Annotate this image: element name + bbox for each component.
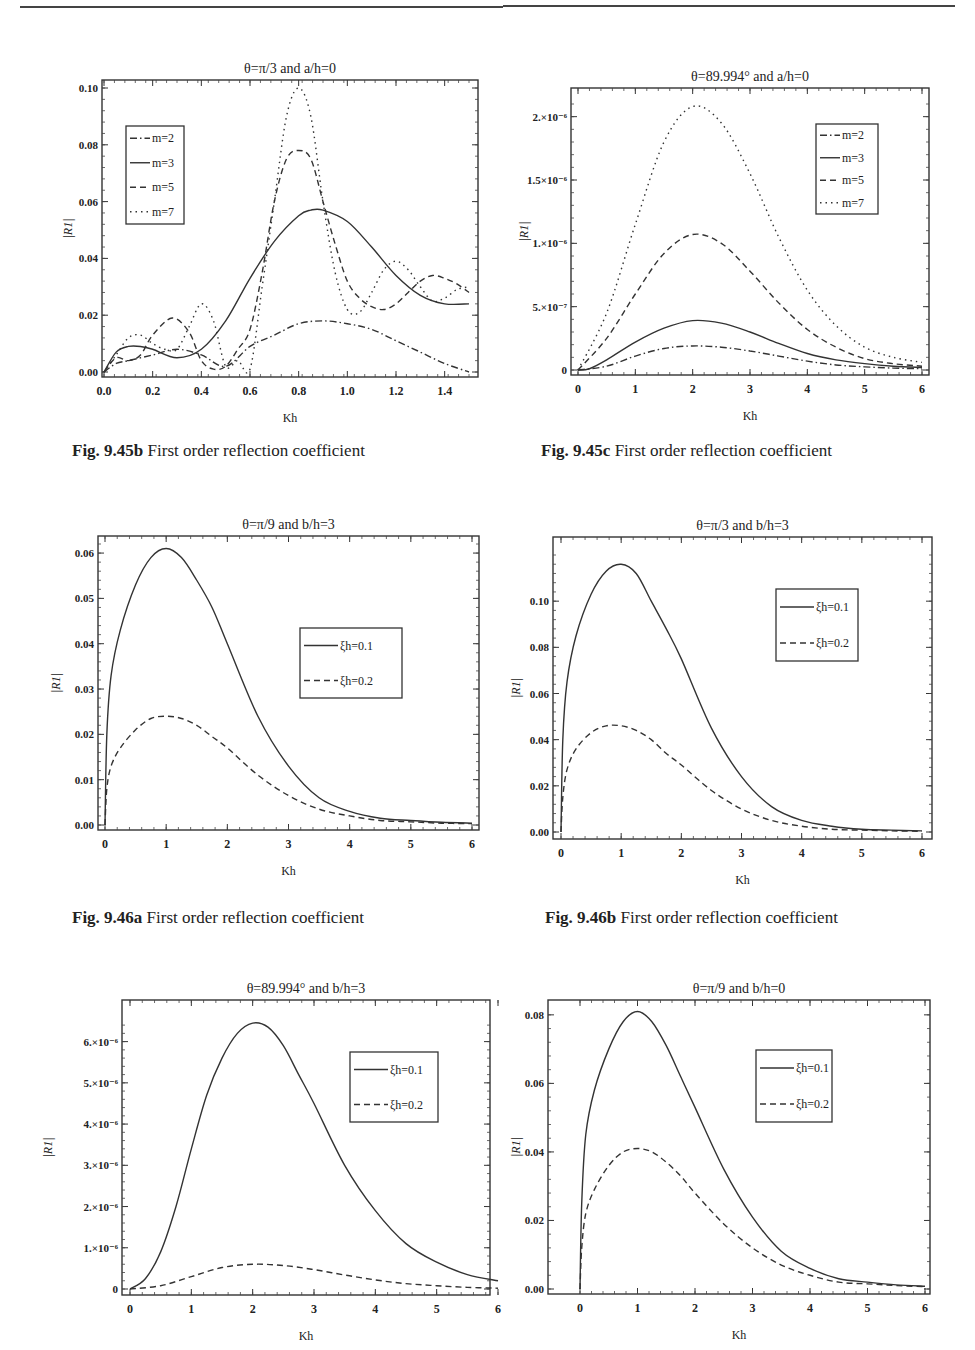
plot-frame <box>548 1000 930 1294</box>
legend-label: ξh=0.1 <box>340 639 373 653</box>
charts-canvas: θ=π/3 and a/h=00.00.20.40.60.81.01.21.40… <box>0 0 975 1350</box>
y-tick-label: 5.×10⁻⁷ <box>532 301 567 313</box>
chart-title: θ=89.994° and a/h=0 <box>691 69 809 84</box>
y-axis-label: |R1| <box>509 1137 523 1157</box>
y-tick-label: 0.06 <box>525 1077 545 1089</box>
y-tick-label: 0.00 <box>525 1283 545 1295</box>
legend-label: m=3 <box>842 151 864 165</box>
plot-frame <box>98 536 479 830</box>
chart-title: θ=89.994° and b/h=3 <box>247 981 366 996</box>
x-tick-label: 0 <box>102 837 108 851</box>
x-tick-label: 1.4 <box>437 384 452 398</box>
x-tick-label: 0 <box>558 846 564 860</box>
x-tick-label: 6 <box>919 382 925 396</box>
x-tick-label: 2 <box>250 1302 256 1316</box>
legend-label: ξh=0.1 <box>796 1061 829 1075</box>
x-axis-label: Kh <box>743 409 758 423</box>
x-tick-label: 3 <box>286 837 292 851</box>
x-tick-label: 2 <box>678 846 684 860</box>
legend-label: m=5 <box>842 173 864 187</box>
y-tick-label: 0.10 <box>79 82 99 94</box>
series-line <box>578 234 922 370</box>
legend-label: m=2 <box>842 128 864 142</box>
line-chart: θ=π/3 and a/h=00.00.20.40.60.81.01.21.40… <box>61 61 478 425</box>
legend-label: m=3 <box>152 156 174 170</box>
legend-label: m=5 <box>152 180 174 194</box>
series-line <box>578 320 922 370</box>
y-tick-label: 0 <box>562 364 568 376</box>
x-axis-label: Kh <box>735 873 750 887</box>
series-line <box>105 716 472 825</box>
x-tick-label: 5 <box>434 1302 440 1316</box>
x-axis-label: Kh <box>732 1328 747 1342</box>
y-tick-label: 0.02 <box>75 728 95 740</box>
plot-frame <box>122 1000 490 1295</box>
series-line <box>580 1011 925 1289</box>
y-axis-label: |R1| <box>41 1138 55 1158</box>
legend-label: m=2 <box>152 131 174 145</box>
chart-title: θ=π/9 and b/h=3 <box>242 517 335 532</box>
y-tick-label: 0.08 <box>530 641 550 653</box>
line-chart: θ=89.994° and b/h=3012345601.×10⁻⁶2.×10⁻… <box>41 981 501 1343</box>
y-axis-label: |R1| <box>61 219 75 239</box>
y-tick-label: 5.×10⁻⁶ <box>83 1077 118 1089</box>
x-tick-label: 2 <box>224 837 230 851</box>
y-tick-label: 1.×10⁻⁶ <box>532 237 567 249</box>
series-line <box>104 209 469 372</box>
y-tick-label: 0.05 <box>75 592 95 604</box>
x-tick-label: 5 <box>865 1301 871 1315</box>
y-tick-label: 0.10 <box>530 595 550 607</box>
x-tick-label: 2 <box>692 1301 698 1315</box>
y-tick-label: 0.08 <box>525 1009 545 1021</box>
y-tick-label: 0.02 <box>525 1214 545 1226</box>
x-tick-label: 2 <box>690 382 696 396</box>
y-tick-label: 0.06 <box>530 688 550 700</box>
legend-label: ξh=0.2 <box>340 674 373 688</box>
y-axis-label: |R1| <box>509 678 523 698</box>
legend-label: ξh=0.2 <box>816 636 849 650</box>
x-tick-label: 6 <box>922 1301 928 1315</box>
chart-title: θ=π/3 and a/h=0 <box>244 61 336 76</box>
series-line <box>104 321 469 372</box>
x-tick-label: 0.0 <box>97 384 112 398</box>
y-tick-label: 0.06 <box>79 196 99 208</box>
x-axis-label: Kh <box>299 1329 314 1343</box>
x-tick-label: 4 <box>347 837 353 851</box>
x-tick-label: 3 <box>747 382 753 396</box>
legend-label: m=7 <box>842 196 864 210</box>
x-tick-label: 0 <box>575 382 581 396</box>
x-tick-label: 1.2 <box>389 384 404 398</box>
x-tick-label: 0.4 <box>194 384 209 398</box>
legend-label: ξh=0.2 <box>796 1097 829 1111</box>
x-tick-label: 0.6 <box>243 384 258 398</box>
x-tick-label: 1 <box>632 382 638 396</box>
x-axis-label: Kh <box>281 864 296 878</box>
y-tick-label: 0.08 <box>79 139 99 151</box>
line-chart: θ=π/9 and b/h=301234560.000.010.020.030.… <box>49 517 479 878</box>
plot-frame <box>102 80 478 377</box>
y-tick-label: 0.00 <box>75 819 95 831</box>
x-tick-label: 0.8 <box>291 384 306 398</box>
y-tick-label: 0.06 <box>75 547 95 559</box>
y-axis-label: |R1| <box>49 673 63 693</box>
y-tick-label: 0.00 <box>79 366 99 378</box>
series-line <box>105 549 472 825</box>
x-tick-label: 1 <box>188 1302 194 1316</box>
line-chart: θ=π/9 and b/h=001234560.000.020.040.060.… <box>509 981 930 1342</box>
chart-title: θ=π/9 and b/h=0 <box>693 981 786 996</box>
series-line <box>130 1264 498 1289</box>
y-tick-label: 0.04 <box>79 252 99 264</box>
plot-frame <box>553 537 932 839</box>
x-tick-label: 1 <box>163 837 169 851</box>
y-tick-label: 0 <box>113 1283 119 1295</box>
legend-label: m=7 <box>152 205 174 219</box>
y-tick-label: 0.04 <box>75 638 95 650</box>
x-axis-label: Kh <box>283 411 298 425</box>
y-tick-label: 0.01 <box>75 774 94 786</box>
x-tick-label: 1.0 <box>340 384 355 398</box>
x-tick-label: 6 <box>919 846 925 860</box>
x-tick-label: 0.2 <box>145 384 160 398</box>
x-tick-label: 4 <box>807 1301 813 1315</box>
x-tick-label: 5 <box>859 846 865 860</box>
y-axis-label: |R1| <box>517 222 531 242</box>
